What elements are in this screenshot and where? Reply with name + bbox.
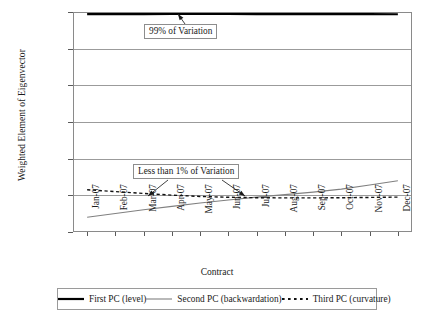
x-tick-mark bbox=[87, 232, 88, 236]
x-tick-mark bbox=[200, 232, 201, 236]
legend-label: Second PC (backwardation) bbox=[177, 294, 281, 304]
legend-label: First PC (level) bbox=[89, 294, 146, 304]
annotation-less-than-1-percent: Less than 1% of Variation bbox=[133, 164, 239, 179]
legend-item: First PC (level) bbox=[58, 294, 146, 304]
x-tick-mark bbox=[313, 232, 314, 236]
x-tick-label: Jul-07 bbox=[261, 184, 271, 236]
x-tick-label: Dec-07 bbox=[402, 184, 412, 236]
x-tick-label: Nov-07 bbox=[374, 184, 384, 236]
x-tick-mark bbox=[115, 232, 116, 236]
x-tick-mark bbox=[144, 232, 145, 236]
legend-label: Third PC (curvature) bbox=[313, 294, 391, 304]
x-tick-mark bbox=[257, 232, 258, 236]
x-tick-label: Jan-07 bbox=[91, 184, 101, 236]
x-tick-label: Apr-07 bbox=[176, 184, 186, 236]
x-tick-mark bbox=[228, 232, 229, 236]
x-tick-label: Feb-07 bbox=[119, 184, 129, 236]
line-solid-black-icon bbox=[58, 295, 84, 303]
x-tick-label: Jun-07 bbox=[232, 184, 242, 236]
legend-item: Third PC (curvature) bbox=[282, 294, 391, 304]
x-tick-mark bbox=[341, 232, 342, 236]
x-tick-label: Mar-07 bbox=[148, 184, 158, 236]
x-tick-mark bbox=[285, 232, 286, 236]
x-tick-label: Aug-07 bbox=[289, 184, 299, 236]
line-solid-gray-icon bbox=[146, 295, 172, 303]
x-tick-mark bbox=[172, 232, 173, 236]
x-tick-label: May-07 bbox=[204, 184, 214, 236]
chart-legend: First PC (level)Second PC (backwardation… bbox=[57, 288, 377, 310]
legend-item: Second PC (backwardation) bbox=[146, 294, 281, 304]
annotation-99-percent: 99% of Variation bbox=[144, 24, 217, 39]
chart-container: Weighted Element of Eigenvector 1.00000.… bbox=[0, 0, 434, 318]
annotation-arrow bbox=[178, 14, 185, 24]
x-tick-mark bbox=[398, 232, 399, 236]
x-axis-title: Contract bbox=[0, 267, 434, 277]
x-tick-mark bbox=[370, 232, 371, 236]
x-tick-label: Oct-07 bbox=[345, 184, 355, 236]
line-dashed-black-icon bbox=[282, 295, 308, 303]
x-tick-label: Sep-07 bbox=[317, 184, 327, 236]
